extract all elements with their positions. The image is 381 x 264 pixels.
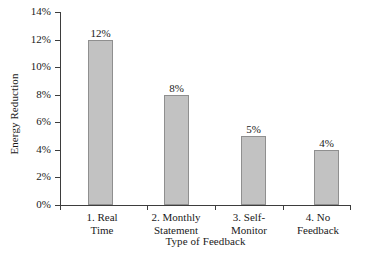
y-tick-label-4: 8% [17,88,51,101]
x-tick-1 [147,205,148,210]
y-tick-label-2: 4% [17,143,51,156]
x-tick-0 [60,205,61,210]
y-tick-1: 2% [55,177,60,178]
x-category-label-0: 1. Real Time [58,211,146,236]
x-tick-3 [283,205,284,210]
y-tick-3: 6% [55,122,60,123]
bar-monthly-statement[interactable]: 8% [164,95,189,205]
x-tick-4 [350,205,351,210]
bar-chart: Energy Reduction 0% 2% 4% 6% 8% 10% 12% … [0,0,381,264]
y-tick-2: 4% [55,150,60,151]
x-category-label-1: 2. Monthly Statement [136,211,216,236]
y-axis-line [60,12,61,205]
x-tick-2 [215,205,216,210]
x-category-label-3: 4. No Feedback [283,211,353,236]
plot-area: 0% 2% 4% 6% 8% 10% 12% 14% 12% [60,12,351,205]
bar-value-label-3: 4% [319,137,334,149]
bar-value-label-2: 5% [246,123,261,135]
y-tick-label-1: 2% [17,170,51,183]
x-axis-title: Type of Feedback [60,235,351,248]
y-tick-label-5: 10% [17,60,51,73]
y-tick-5: 10% [55,67,60,68]
bar-real-time[interactable]: 12% [88,40,113,205]
bar-value-label-0: 12% [90,27,110,39]
y-tick-label-0: 0% [17,198,51,211]
bar-no-feedback[interactable]: 4% [314,150,339,205]
bar-value-label-1: 8% [169,82,184,94]
x-category-label-2: 3. Self- Monitor [209,211,289,236]
y-tick-6: 12% [55,40,60,41]
y-tick-4: 8% [55,95,60,96]
y-tick-label-3: 6% [17,115,51,128]
bar-self-monitor[interactable]: 5% [241,136,266,205]
y-tick-label-7: 14% [17,5,51,18]
y-tick-label-6: 12% [17,33,51,46]
y-tick-7: 14% [55,12,60,13]
x-axis-line [60,205,351,206]
